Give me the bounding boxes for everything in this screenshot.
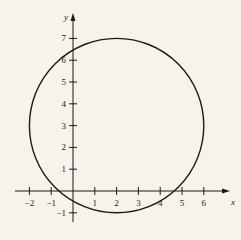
plot: xy−2−1123456−11234567	[0, 0, 241, 240]
y-tick-label: 7	[62, 33, 67, 43]
y-tick-label: 2	[62, 142, 67, 152]
x-tick-label: 5	[180, 198, 185, 208]
circle-curve	[29, 38, 203, 212]
x-tick-label: 6	[202, 198, 207, 208]
x-tick-label: −2	[25, 198, 35, 208]
x-axis-label: x	[230, 197, 235, 207]
y-tick-label: 4	[62, 99, 67, 109]
x-arrow-icon	[222, 189, 230, 194]
x-tick-label: −1	[46, 198, 56, 208]
figure: xy−2−1123456−11234567	[0, 0, 241, 240]
x-tick-label: 1	[93, 198, 98, 208]
y-tick-label: 3	[62, 121, 67, 131]
y-arrow-icon	[71, 13, 76, 21]
x-tick-label: 3	[136, 198, 141, 208]
y-tick-label: 5	[62, 77, 67, 87]
y-tick-label: 1	[62, 164, 67, 174]
y-tick-label: −1	[56, 208, 66, 218]
x-tick-label: 2	[114, 198, 119, 208]
y-axis-label: y	[63, 12, 68, 22]
